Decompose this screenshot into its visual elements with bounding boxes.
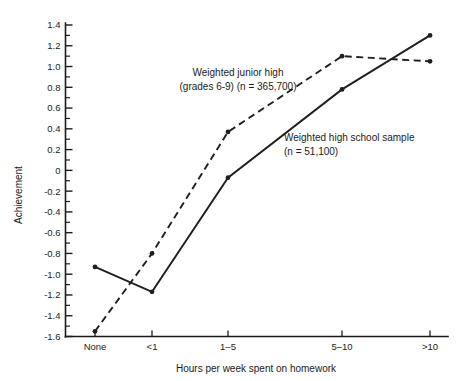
- data-point-marker: [93, 329, 98, 334]
- data-point-marker: [226, 130, 231, 135]
- y-tick-label: 0.6: [47, 102, 60, 113]
- junior-high-annotation-line1: Weighted junior high: [193, 67, 284, 78]
- x-tick-label: 5–10: [331, 341, 352, 352]
- x-axis-title: Hours per week spent on homework: [176, 363, 337, 374]
- high-school-annotation-line1: Weighted high school sample: [284, 132, 415, 143]
- y-tick-label: -1.6: [44, 331, 60, 342]
- x-tick-label: None: [84, 341, 107, 352]
- y-tick-label: 0.2: [47, 144, 60, 155]
- y-tick-label: -0.2: [44, 186, 60, 197]
- data-point-marker: [428, 33, 433, 38]
- data-point-marker: [150, 289, 155, 294]
- y-tick-label: -0.8: [44, 248, 60, 259]
- y-tick-label: -0.4: [44, 206, 60, 217]
- high-school-annotation-line2: (n = 51,100): [284, 146, 338, 157]
- data-point-marker: [428, 59, 433, 64]
- y-tick-label: 1.2: [47, 40, 60, 51]
- y-tick-label: -1.4: [44, 310, 60, 321]
- x-tick-label: 1–5: [220, 341, 236, 352]
- y-tick-label: 0: [55, 165, 60, 176]
- high-school-annotation: Weighted high school sample (n = 51,100): [284, 132, 415, 157]
- x-axis-ticks: None<11–55–10>10: [84, 331, 438, 352]
- junior-high-annotation: Weighted junior high (grades 6-9) (n = 3…: [179, 67, 296, 92]
- data-point-marker: [150, 251, 155, 256]
- data-point-marker: [93, 265, 98, 270]
- x-tick-label: <1: [147, 341, 158, 352]
- y-tick-label: -1.0: [44, 269, 60, 280]
- data-point-marker: [226, 175, 231, 180]
- data-point-marker: [340, 87, 345, 92]
- y-axis-title: Achievement: [13, 166, 24, 224]
- y-tick-label: 0.8: [47, 82, 60, 93]
- data-point-marker: [340, 54, 345, 59]
- y-tick-label: 1.0: [47, 61, 60, 72]
- data-series-layer: [93, 33, 433, 334]
- y-tick-label: -0.6: [44, 227, 60, 238]
- series-line-junior-high: [95, 56, 430, 331]
- junior-high-annotation-line2: (grades 6-9) (n = 365,700): [179, 81, 296, 92]
- achievement-homework-line-chart: 1.41.21.00.80.60.40.20-0.2-0.4-0.6-0.8-1…: [0, 0, 461, 381]
- y-tick-label: 1.4: [47, 19, 60, 30]
- y-tick-label: 0.4: [47, 123, 60, 134]
- chart-page: 1.41.21.00.80.60.40.20-0.2-0.4-0.6-0.8-1…: [0, 0, 461, 381]
- x-tick-label: >10: [422, 341, 438, 352]
- y-tick-label: -1.2: [44, 289, 60, 300]
